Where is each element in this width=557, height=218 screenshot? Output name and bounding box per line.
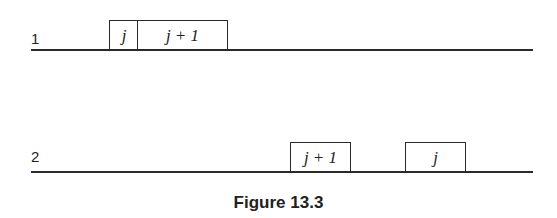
row-2-box-j: j bbox=[405, 142, 466, 172]
row-2-box-j-text: j bbox=[433, 148, 438, 168]
row-1-box-j-text: j bbox=[122, 26, 127, 46]
figure-canvas: 1 j j + 1 2 j + 1 j Figure 13.3 bbox=[0, 0, 557, 218]
row-1-box-j: j bbox=[109, 20, 139, 50]
row-1-box-j-plus-1: j + 1 bbox=[137, 20, 228, 50]
row-1-label: 1 bbox=[31, 31, 39, 46]
row-2-box-j-plus-1-text: j + 1 bbox=[304, 148, 337, 168]
row-1-track-line bbox=[31, 49, 533, 51]
row-2-box-j-plus-1: j + 1 bbox=[290, 142, 351, 172]
figure-caption: Figure 13.3 bbox=[0, 193, 557, 213]
row-2-label: 2 bbox=[31, 149, 39, 164]
row-2-track-line bbox=[31, 171, 533, 173]
row-1-box-j-plus-1-text: j + 1 bbox=[166, 26, 199, 46]
